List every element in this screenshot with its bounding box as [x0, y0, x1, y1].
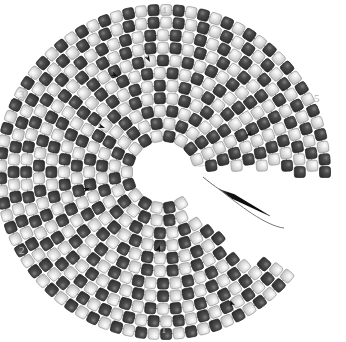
bead-dark: [181, 57, 194, 70]
bead-light: [122, 167, 133, 178]
bead-dark: [173, 17, 185, 29]
bead-light: [166, 226, 179, 239]
bead-light: [144, 55, 156, 67]
bead-dark: [59, 179, 71, 191]
bead-light: [193, 284, 207, 298]
bead-light: [158, 303, 169, 314]
bead-dark: [170, 302, 182, 314]
bead-light: [109, 159, 121, 171]
bead-dark: [141, 106, 154, 119]
bead-dark: [265, 141, 278, 154]
bead-light: [96, 172, 108, 184]
bead-light: [154, 105, 166, 117]
bead-light: [4, 110, 18, 124]
bead-dark: [154, 227, 166, 239]
bead-dark: [28, 214, 42, 228]
bead-dark: [197, 8, 210, 21]
bead-light: [106, 37, 120, 51]
bead-light: [135, 314, 147, 326]
bead-light: [46, 153, 58, 165]
bead-light: [174, 210, 188, 224]
bead-light: [110, 307, 124, 321]
bead-light: [12, 128, 25, 141]
bead-dark: [163, 130, 176, 143]
bead-dark: [173, 315, 185, 327]
bead-dark: [46, 167, 57, 178]
bead-dark: [277, 134, 290, 147]
bead-light: [317, 141, 330, 154]
bead-light: [163, 118, 175, 130]
bead-light: [144, 277, 156, 289]
bead-light: [51, 128, 65, 142]
bead-light: [122, 324, 135, 337]
bead-light: [161, 17, 172, 28]
bead-dark: [96, 160, 108, 172]
bead-dark: [119, 47, 133, 61]
bead-light: [128, 247, 142, 261]
bead-dark: [178, 236, 192, 250]
bead-light: [12, 202, 25, 215]
needle-layer: [203, 177, 284, 228]
bead-light: [141, 225, 154, 238]
bead-dark: [9, 191, 22, 204]
bead-light: [185, 6, 198, 19]
bead-light: [288, 128, 302, 142]
bead-light: [141, 93, 154, 106]
bead-light: [166, 239, 178, 251]
bead-light: [21, 179, 33, 191]
bead-dark: [122, 20, 135, 33]
bead-dark: [0, 147, 8, 159]
bead-light: [173, 327, 185, 339]
bead-light: [154, 265, 165, 276]
bead-light: [280, 147, 293, 160]
bead-dark: [0, 173, 7, 184]
segment-label-4: 4: [161, 5, 167, 16]
bead-dark: [314, 128, 327, 141]
bead-light: [131, 300, 144, 313]
bead-light: [182, 31, 195, 44]
bead-light: [193, 60, 207, 74]
bead-light: [128, 260, 142, 274]
bead-dark: [291, 140, 304, 153]
bead-light: [21, 153, 33, 165]
bead-light: [261, 128, 275, 142]
bead-dark: [163, 214, 175, 226]
bead-light: [8, 154, 20, 166]
bead-dark: [150, 118, 162, 130]
bead-light: [208, 12, 222, 26]
bead-light: [182, 44, 195, 57]
bead-dark: [167, 265, 179, 277]
segment-label-5: 5: [314, 93, 320, 104]
bead-light: [150, 214, 162, 226]
bead-light: [59, 167, 70, 178]
bead-dark: [72, 184, 85, 197]
bead-light: [272, 122, 286, 136]
bead-light: [166, 80, 178, 92]
bead-light: [110, 10, 124, 24]
bead-dark: [228, 147, 241, 160]
bead-dark: [39, 208, 53, 222]
bead-dark: [208, 318, 222, 332]
bead-dark: [132, 57, 145, 70]
bead-light: [293, 153, 305, 165]
bead-dark: [178, 82, 191, 95]
bead-dark: [166, 105, 179, 118]
bead-light: [256, 160, 268, 172]
bead-dark: [190, 72, 204, 86]
bead-light: [0, 185, 8, 197]
bead-dark: [141, 251, 154, 264]
bead-dark: [193, 47, 207, 61]
bead-dark: [98, 14, 112, 28]
bead-light: [197, 322, 210, 335]
bead-dark: [144, 42, 156, 54]
bead-dark: [167, 67, 179, 79]
bead-light: [61, 140, 74, 153]
bead-dark: [158, 55, 169, 66]
bead-dark: [320, 167, 331, 178]
segment-label-2: 2: [19, 245, 25, 256]
bead-light: [25, 128, 39, 142]
bead-dark: [194, 34, 208, 48]
bead-light: [169, 277, 181, 289]
bead-dark: [0, 122, 14, 136]
bead-light: [132, 44, 145, 57]
